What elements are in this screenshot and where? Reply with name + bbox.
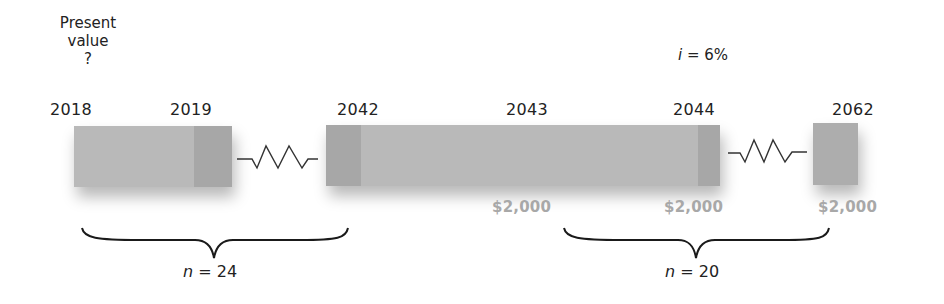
timeline-decorations bbox=[0, 0, 944, 304]
payment-amount-2043: $2,000 bbox=[492, 198, 551, 216]
zigzag-break-icon bbox=[728, 140, 807, 162]
payment-amount-2062: $2,000 bbox=[818, 198, 877, 216]
period-value: = 24 bbox=[193, 262, 237, 281]
zigzag-break-icon bbox=[237, 146, 318, 168]
period-count-deferral: n = 24 bbox=[183, 262, 237, 281]
payment-amount-2044: $2,000 bbox=[664, 198, 723, 216]
period-symbol: n bbox=[665, 262, 675, 281]
period-count-annuity: n = 20 bbox=[665, 262, 719, 281]
brace-deferral-icon bbox=[82, 228, 348, 258]
brace-annuity-icon bbox=[564, 228, 829, 258]
period-value: = 20 bbox=[675, 262, 719, 281]
period-symbol: n bbox=[183, 262, 193, 281]
